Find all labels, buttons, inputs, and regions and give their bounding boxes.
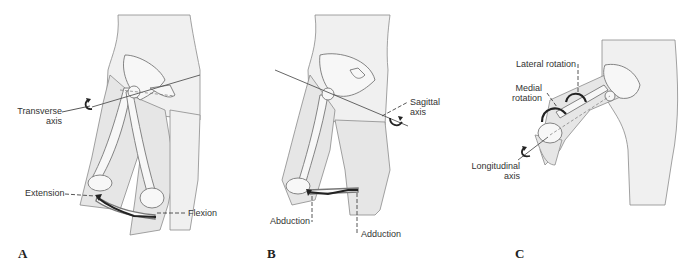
panel-letter-a: A [18, 246, 27, 262]
panel-a: Transverse axis Extension Flexion A [0, 0, 240, 279]
sagittal-axis-label: Sagittal axis [410, 97, 440, 117]
extension-label: Extension [25, 188, 65, 198]
panel-letter-c: C [515, 246, 524, 262]
flexion-label: Flexion [188, 208, 217, 218]
hip-flexion-extension-illustration [0, 0, 240, 279]
panel-c: Lateral rotation Medial rotation Longitu… [460, 0, 700, 279]
longitudinal-axis-label: Longitudinal axis [460, 161, 520, 181]
medial-rotation-label: Medial rotation [500, 83, 542, 103]
adduction-label: Adduction [361, 229, 401, 239]
panel-b: Sagittal axis Abduction Adduction B [240, 0, 460, 279]
panel-letter-b: B [267, 246, 276, 262]
hip-abduction-adduction-illustration [240, 0, 460, 279]
abduction-label: Abduction [270, 216, 310, 226]
lateral-rotation-label: Lateral rotation [516, 59, 576, 69]
transverse-axis-label: Transverse axis [10, 106, 62, 126]
hip-rotation-illustration [460, 0, 700, 279]
